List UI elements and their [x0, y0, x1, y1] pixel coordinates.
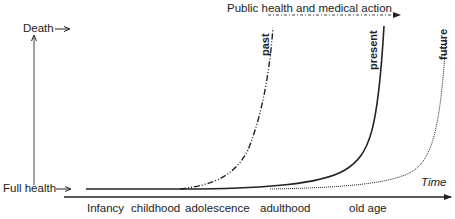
stage-childhood: childhood	[131, 202, 180, 214]
time-axis-label: Time	[421, 176, 446, 188]
stage-old-age: old age	[349, 202, 387, 214]
death-label: Death	[23, 22, 54, 34]
curve-label-present: present	[367, 30, 379, 70]
stage-infancy: Infancy	[87, 202, 124, 214]
curve-label-past: past	[259, 33, 271, 56]
action-label: Public health and medical action	[227, 2, 392, 14]
present-curve	[200, 26, 384, 189]
health-trajectory-diagram	[0, 0, 455, 219]
full-health-label: Full health	[3, 182, 56, 194]
stage-adulthood: adulthood	[260, 202, 311, 214]
curve-label-future: future	[437, 29, 449, 60]
stage-adolescence: adolescence	[185, 202, 250, 214]
future-curve	[270, 36, 446, 189]
